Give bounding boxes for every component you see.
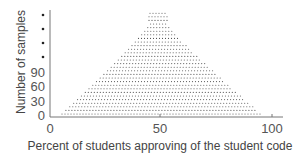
y-tick-label-60: 60 <box>31 79 45 94</box>
x-tick-label-0: 0 <box>46 121 53 136</box>
data-dots <box>61 13 260 115</box>
y-tick-label-90: 90 <box>31 65 45 80</box>
x-axis-title: Percent of students approving of the stu… <box>28 139 293 153</box>
y-axis-title: Number of samples <box>14 10 28 114</box>
dot-plot-chart: 90 60 30 0 0 50 100 Percent of students … <box>0 0 299 158</box>
x-tick-label-100: 100 <box>261 121 283 136</box>
x-tick-label-50: 50 <box>153 121 167 136</box>
y-tick-label-0: 0 <box>38 108 45 123</box>
y-tick-label-30: 30 <box>31 94 45 109</box>
y-axis-break-dots <box>42 14 45 59</box>
